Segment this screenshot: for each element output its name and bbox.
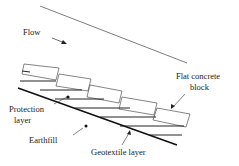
flow-arrow-icon [52,38,67,44]
earthfill-leader [73,125,88,136]
protection-layer-label-2: layer [14,115,31,125]
slope-protection-diagram: Flow Flat concrete block Protection laye… [0,0,239,166]
flow-label: Flow [23,27,41,37]
water-surface-line [40,6,187,63]
protection-layer-label: Protection [9,104,45,114]
earthfill-label: Earthfill [29,135,58,145]
flat-concrete-block-leader [171,94,185,109]
flat-concrete-block-label: Flat concrete [176,71,220,81]
concrete-blocks [22,64,190,127]
geotextile-layer-leader [122,130,131,145]
protection-layer-hatch [20,71,184,135]
protection-layer-leader [54,95,70,104]
geotextile-layer-label: Geotextile layer [91,147,146,157]
flat-concrete-block-label-2: block [190,82,210,92]
